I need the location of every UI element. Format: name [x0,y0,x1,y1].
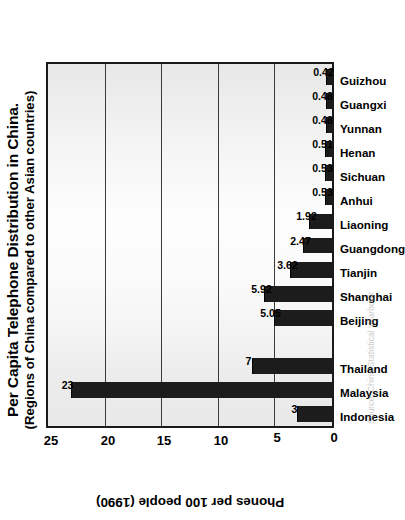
category-label: Guizhou [340,75,386,87]
value-tick-label: 0 [330,431,337,444]
bar-slot: 0.42 [48,69,332,85]
bar-value-label: 23 [62,379,74,390]
bar-value-label: 0.53 [312,187,332,198]
bar-value-label: 0.42 [313,67,333,78]
bar-value-label: 2.47 [290,235,310,246]
category-label: Sichuan [340,171,385,183]
bar-slot [48,334,332,350]
bar[interactable] [274,310,332,326]
bar-slot: 23 [48,382,332,398]
value-tick-label: 20 [100,435,114,448]
bar-value-label: 3 [291,403,297,414]
source-note: Source: China Statistical Yearbook [366,274,377,424]
chart-title: Per Capita Telephone Distribution in Chi… [4,0,21,520]
value-tick-label: 10 [214,435,228,448]
chart-subtitle: (Regions of China compared to other Asia… [22,0,37,520]
bar-slot: 0.48 [48,93,332,109]
value-tick-label: 15 [157,435,171,448]
bar-slot: 5.05 [48,310,332,326]
bar-slot: 0.53 [48,189,332,205]
bar-slot: 2.47 [48,238,332,254]
category-label: Malaysia [340,387,388,399]
bar-value-label: 5.05 [261,307,281,318]
bar-slot: 7 [48,358,332,374]
bar-value-label: 0.53 [312,163,332,174]
bar-slot: 0.48 [48,117,332,133]
bar-value-label: 7 [246,355,252,366]
category-label: Henan [340,147,375,159]
bar-value-label: 3.62 [277,259,297,270]
value-tick-label: 5 [274,431,281,444]
bar-value-label: 0.48 [312,91,332,102]
title-block: Per Capita Telephone Distribution in Chi… [4,0,38,520]
bar-value-label: 0.48 [312,115,332,126]
value-tick-label: 25 [44,435,58,448]
bar[interactable] [71,382,332,398]
plot-area: 32375.055.923.622.471.920.530.530.510.48… [46,62,334,428]
category-label: Guangxi [340,99,386,111]
bar-value-label: 0.51 [312,139,332,150]
category-label: Guangdong [340,243,405,255]
category-label: Liaoning [340,219,388,231]
bar-value-label: 1.92 [296,211,316,222]
bar[interactable] [297,406,332,422]
bar-slot: 1.92 [48,214,332,230]
bar-value-label: 5.92 [251,283,271,294]
bars-layer: 32375.055.923.622.471.920.530.530.510.48… [48,64,332,426]
bar-slot: 5.92 [48,286,332,302]
category-label: Anhui [340,195,373,207]
bar-slot: 0.53 [48,165,332,181]
bar[interactable] [252,358,332,374]
bar-slot: 3.62 [48,262,332,278]
category-label: Yunnan [340,123,382,135]
value-axis-title: Phones per 100 people (1990) [46,492,334,514]
bar[interactable] [264,286,332,302]
value-axis-ticks: 0510152025 [46,430,334,480]
bar-slot: 0.51 [48,141,332,157]
value-axis-title-text: Phones per 100 people (1990) [96,496,284,511]
bar-slot: 3 [48,406,332,422]
category-label: Thailand [340,363,388,375]
